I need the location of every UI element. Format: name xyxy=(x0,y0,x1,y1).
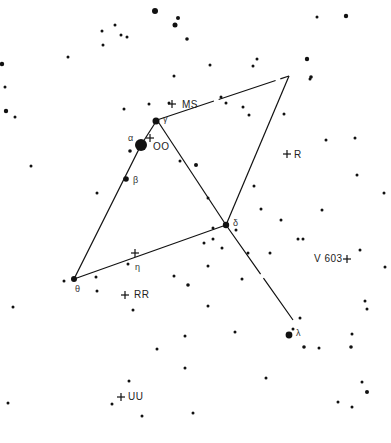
field-star xyxy=(337,401,340,404)
star-label-theta: θ xyxy=(75,284,80,294)
field-star xyxy=(203,242,206,245)
field-star xyxy=(192,412,195,415)
field-star xyxy=(128,380,131,383)
field-star xyxy=(30,165,33,168)
field-star xyxy=(63,280,66,283)
field-star xyxy=(102,44,105,47)
field-star xyxy=(241,278,244,281)
field-star xyxy=(302,238,305,241)
field-star xyxy=(316,16,319,19)
field-star xyxy=(209,64,212,67)
field-star xyxy=(325,139,328,142)
field-star xyxy=(225,102,228,105)
star-beta xyxy=(123,176,129,182)
star-theta xyxy=(71,276,77,282)
field-star xyxy=(148,103,151,106)
field-stars xyxy=(0,8,387,418)
field-star xyxy=(297,238,300,241)
field-star xyxy=(207,197,210,200)
constellation-line xyxy=(157,76,289,120)
field-star xyxy=(292,328,295,331)
variable-star-cross-RR xyxy=(121,291,129,299)
star-label-delta: δ xyxy=(233,218,238,228)
field-star xyxy=(212,238,215,241)
field-star xyxy=(111,403,114,406)
field-star xyxy=(186,283,190,287)
field-star xyxy=(269,252,272,255)
star-label-alpha: α xyxy=(128,133,133,143)
field-star xyxy=(248,114,251,117)
field-star xyxy=(221,247,224,250)
field-star xyxy=(247,252,250,255)
named-stars xyxy=(71,118,292,339)
star-label-gamma: γ xyxy=(163,114,168,124)
field-star xyxy=(366,308,369,311)
field-star xyxy=(305,57,309,61)
field-star xyxy=(356,174,359,177)
field-star xyxy=(14,116,17,119)
field-star xyxy=(126,36,129,39)
field-star xyxy=(207,265,210,268)
star-lambda xyxy=(286,332,293,339)
field-star xyxy=(309,78,312,81)
field-star xyxy=(207,305,210,308)
field-star xyxy=(114,24,117,27)
constellation-line xyxy=(226,76,289,225)
field-star xyxy=(156,348,159,351)
field-star xyxy=(220,96,223,99)
field-star xyxy=(384,266,387,269)
field-star xyxy=(351,333,354,336)
field-star xyxy=(351,406,354,409)
field-star xyxy=(383,192,386,195)
field-star xyxy=(176,16,180,20)
field-star xyxy=(349,345,353,349)
variable-star-label-V603: V 603 xyxy=(314,254,343,264)
field-star xyxy=(299,317,302,320)
field-star xyxy=(123,108,126,111)
star-gamma xyxy=(153,118,160,125)
field-star xyxy=(280,219,283,222)
field-star xyxy=(173,75,176,78)
constellation-line xyxy=(157,120,226,225)
field-star xyxy=(265,377,268,380)
constellation-lines xyxy=(74,76,293,320)
variable-star-cross-R xyxy=(283,150,291,158)
field-star xyxy=(67,56,70,59)
star-eta xyxy=(127,263,130,266)
star-delta xyxy=(223,222,229,228)
field-star xyxy=(253,185,256,188)
field-star xyxy=(179,160,182,163)
variable-star-cross-V603 xyxy=(343,255,351,263)
field-star xyxy=(0,62,4,66)
field-star xyxy=(361,381,364,384)
field-star xyxy=(344,14,348,18)
variable-star-label-MS: MS xyxy=(182,100,198,110)
variable-star-label-R: R xyxy=(294,150,302,160)
field-star xyxy=(321,209,324,212)
field-star xyxy=(234,331,237,334)
field-star xyxy=(194,163,198,167)
field-star xyxy=(4,86,7,89)
field-star xyxy=(120,34,123,37)
field-star xyxy=(132,309,135,312)
field-star xyxy=(365,390,369,394)
field-star xyxy=(184,335,187,338)
field-star xyxy=(95,276,98,279)
variable-star-cross-MS xyxy=(168,100,176,108)
field-star xyxy=(184,367,187,370)
star-label-eta: η xyxy=(135,262,140,272)
field-star xyxy=(302,345,306,349)
field-star xyxy=(128,149,132,153)
field-star xyxy=(96,290,99,293)
star-chart xyxy=(0,0,391,443)
field-star xyxy=(235,229,238,232)
field-star xyxy=(354,137,357,140)
field-star xyxy=(359,249,362,252)
field-star xyxy=(252,65,255,68)
variable-star-label-UU: UU xyxy=(128,392,143,402)
field-star xyxy=(283,113,286,116)
field-star xyxy=(12,306,15,309)
field-star xyxy=(256,58,259,61)
field-star xyxy=(212,227,215,230)
field-star xyxy=(318,347,321,350)
